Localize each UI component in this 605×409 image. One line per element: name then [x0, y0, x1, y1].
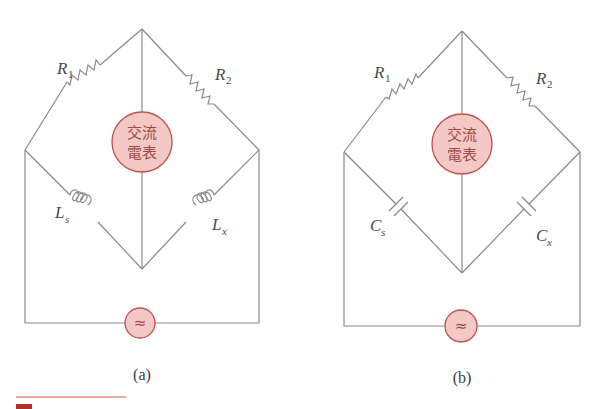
inductor-ls-arm-a	[25, 150, 142, 269]
svg-text:R: R	[535, 69, 547, 88]
svg-text:2: 2	[547, 78, 553, 90]
svg-text:R: R	[373, 63, 385, 82]
svg-text:x: x	[546, 236, 552, 248]
ac-meter-b: 交流 電表	[432, 114, 492, 174]
svg-text:R: R	[214, 65, 226, 84]
svg-text:R: R	[56, 59, 68, 78]
svg-text:s: s	[381, 226, 385, 238]
label-r2-b: R 2	[535, 69, 553, 90]
meter-label-line2-b: 電表	[447, 146, 477, 164]
label-r2-a: R 2	[214, 65, 232, 86]
caption-b: (b)	[453, 369, 472, 387]
ac-source-a: ≈	[125, 308, 155, 338]
ac-source-b: ≈	[445, 310, 477, 342]
inductor-lx-arm-a	[142, 150, 259, 269]
svg-text:1: 1	[385, 72, 391, 84]
panel-a-inductance-bridge: 交流 電表 ≈ R 1 R 2	[25, 29, 259, 384]
caption-marker	[16, 404, 32, 409]
svg-text:L: L	[211, 215, 221, 234]
label-r1-b: R 1	[373, 63, 391, 84]
ac-source-symbol-a: ≈	[134, 314, 147, 332]
ac-source-symbol-b: ≈	[455, 317, 468, 335]
ac-meter-a: 交流 電表	[112, 112, 172, 172]
caption-a: (a)	[133, 366, 151, 384]
svg-text:s: s	[65, 213, 69, 225]
svg-text:1: 1	[68, 68, 74, 80]
svg-text:L: L	[54, 203, 64, 222]
meter-label-line2-a: 電表	[127, 144, 157, 162]
label-ls-a: L s	[54, 203, 69, 225]
bridge-diagram: 交流 電表 ≈ R 1 R 2	[0, 0, 605, 409]
meter-label-line1-b: 交流	[447, 126, 477, 144]
label-r1-a: R 1	[56, 59, 74, 80]
label-cx-b: C x	[536, 226, 552, 248]
meter-label-line1-a: 交流	[127, 124, 157, 142]
svg-text:2: 2	[226, 74, 232, 86]
label-cs-b: C s	[370, 216, 385, 238]
svg-text:x: x	[221, 225, 227, 237]
label-lx-a: L x	[211, 215, 227, 237]
capacitor-cx-arm-b	[462, 152, 580, 273]
panel-b-capacitance-bridge: 交流 電表 ≈ R 1 R	[344, 31, 580, 387]
capacitor-cs-arm-b	[344, 152, 462, 273]
